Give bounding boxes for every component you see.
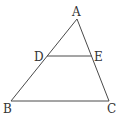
label-c: C [107,102,116,116]
label-d: D [34,50,44,64]
label-a: A [71,5,81,19]
diagram-svg: A D E B C [0,0,117,123]
triangle-diagram: A D E B C [0,0,117,123]
label-b: B [3,102,12,116]
segment-ac [77,19,109,101]
segment-ab [11,19,77,101]
label-e: E [94,50,103,64]
